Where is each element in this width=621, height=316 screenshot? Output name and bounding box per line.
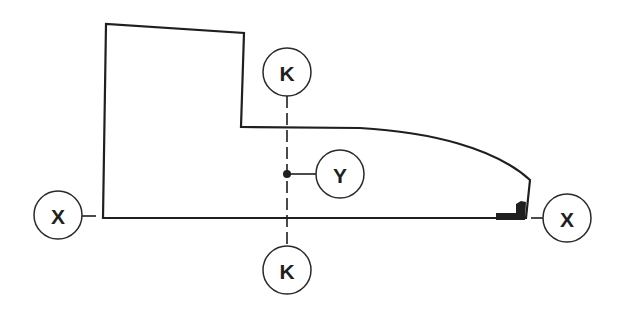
profile-outline [103, 24, 530, 218]
x-right-label: X [560, 208, 574, 231]
profile-diagram: K Y K X X [0, 0, 621, 316]
heel-block [496, 201, 526, 220]
k-bottom-callout: K [263, 246, 311, 294]
x-left-label: X [51, 205, 65, 228]
k-bottom-label: K [279, 260, 294, 283]
k-top-callout: K [263, 48, 311, 96]
y-callout: Y [316, 150, 364, 198]
k-top-label: K [279, 62, 294, 85]
y-label: Y [333, 164, 347, 187]
x-right-callout: X [543, 194, 591, 242]
x-left-callout: X [34, 191, 82, 239]
